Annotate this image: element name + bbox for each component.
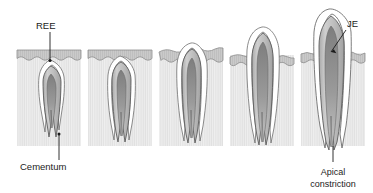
cementum-marker-dot: [58, 133, 61, 136]
tooth-eruption-diagram: REE Cementum JE Apical constriction: [0, 0, 373, 193]
diagram-canvas: REE Cementum JE Apical constriction: [0, 0, 373, 193]
ree-marker-dot: [48, 59, 51, 62]
panel-stage-2: [88, 50, 152, 146]
ree-label: REE: [36, 20, 56, 31]
panel-stage-1: [17, 50, 81, 146]
je-label: JE: [347, 18, 358, 29]
cementum-label: Cementum: [20, 161, 67, 172]
apical-constriction-label-line1: Apical: [321, 167, 346, 177]
panel-stage-3: [159, 43, 223, 146]
apical-constriction-label-line2: constriction: [310, 179, 356, 189]
